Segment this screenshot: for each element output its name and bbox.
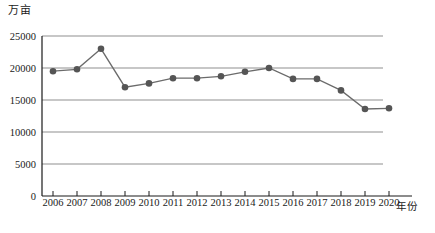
data-point (386, 105, 393, 112)
x-tick-label: 2016 (283, 197, 304, 208)
data-point (290, 76, 297, 83)
data-point (338, 87, 345, 94)
data-point (50, 68, 57, 75)
data-point (266, 65, 273, 72)
x-tick-label: 2008 (91, 197, 112, 208)
data-point (122, 84, 129, 91)
data-point (74, 66, 81, 73)
x-tick-label: 2013 (211, 197, 232, 208)
x-tick-label: 2015 (259, 197, 280, 208)
data-point (98, 46, 105, 53)
data-point (194, 75, 201, 82)
data-point (314, 76, 321, 83)
x-tick-label: 2019 (355, 197, 376, 208)
data-point (146, 80, 153, 87)
x-tick-label: 2012 (187, 197, 208, 208)
x-tick-label: 2020 (379, 197, 400, 208)
axes (42, 36, 412, 196)
x-tick-label: 2018 (331, 197, 352, 208)
x-tick-label: 2014 (235, 197, 256, 208)
data-point (170, 75, 177, 82)
line-chart: 万亩 年份 25000 20000 15000 10000 5000 0 (0, 0, 435, 233)
data-point (242, 69, 249, 76)
x-tick-label: 2006 (43, 197, 64, 208)
x-axis-ticks (53, 191, 389, 196)
series-markers (50, 46, 393, 113)
x-tick-label: 2011 (163, 197, 184, 208)
x-tick-label: 2009 (115, 197, 136, 208)
data-point (218, 73, 225, 80)
x-tick-label: 2007 (67, 197, 88, 208)
data-point (362, 106, 369, 113)
x-tick-label: 2010 (139, 197, 160, 208)
x-tick-label: 2017 (307, 197, 328, 208)
